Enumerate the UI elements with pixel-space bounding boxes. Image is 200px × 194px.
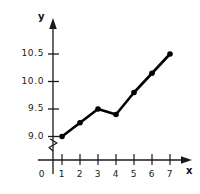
x-tick-label-3: 3 xyxy=(90,170,106,179)
data-point xyxy=(113,112,119,118)
y-tick-label-9-5: 9.5 xyxy=(4,104,44,113)
x-axis-arrowhead xyxy=(181,156,192,163)
y-tick-label-10-0: 10.0 xyxy=(4,77,44,86)
data-point xyxy=(131,90,137,96)
x-tick-label-7: 7 xyxy=(162,170,178,179)
data-point xyxy=(59,134,65,140)
y-tick-label-9-0: 9.0 xyxy=(4,132,44,141)
x-tick-label-6: 6 xyxy=(144,170,160,179)
x-tick-label-0: 0 xyxy=(34,170,50,179)
y-tick-label-10-5: 10.5 xyxy=(4,49,44,58)
data-point xyxy=(77,120,83,126)
data-point xyxy=(95,106,101,112)
x-tick-label-1: 1 xyxy=(54,170,70,179)
x-tick-label-4: 4 xyxy=(108,170,124,179)
data-point xyxy=(149,70,155,76)
x-axis-label: x xyxy=(186,166,192,176)
x-tick-label-5: 5 xyxy=(126,170,142,179)
chart-plot-area xyxy=(0,0,200,194)
x-tick-label-2: 2 xyxy=(72,170,88,179)
y-axis-label: y xyxy=(38,12,45,22)
y-axis-arrowhead xyxy=(49,18,57,29)
data-point xyxy=(167,51,173,57)
line-chart: 9.0 9.5 10.0 10.5 0 1 2 3 4 5 6 7 y x xyxy=(0,0,200,194)
